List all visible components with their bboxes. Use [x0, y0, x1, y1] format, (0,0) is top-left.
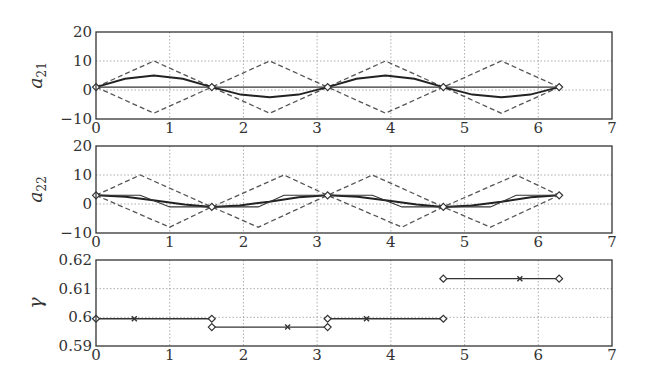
- x-tick-label: 5: [460, 346, 470, 364]
- x-tick-label: 6: [534, 346, 544, 364]
- y-tick-label: 10: [73, 52, 92, 70]
- x-tick-label: 1: [165, 233, 175, 251]
- x-tick-label: 5: [460, 119, 470, 137]
- x-tick-label: 4: [386, 119, 396, 137]
- x-tick-label: 5: [460, 233, 470, 251]
- diamond-marker: [556, 275, 563, 282]
- grid: [96, 260, 612, 346]
- x-tick-label: 1: [165, 119, 175, 137]
- diamond-marker: [324, 324, 331, 331]
- y-tick-label: 0.6: [68, 308, 92, 326]
- x-tick-label: 6: [534, 233, 544, 251]
- x-tick-label: 7: [607, 346, 617, 364]
- gamma-segment: [93, 315, 216, 322]
- y-axis-label: a21: [24, 62, 49, 89]
- chart-figure: 0123456720100−10a210123456720100−10a2201…: [0, 0, 646, 387]
- diamond-marker: [208, 315, 215, 322]
- x-tick-label: 3: [312, 119, 322, 137]
- gamma-segment: [440, 275, 563, 282]
- x-tick-label: 1: [165, 346, 175, 364]
- y-tick-label: 0: [82, 81, 92, 99]
- diamond-marker: [208, 84, 215, 91]
- axes-frame: [96, 260, 612, 346]
- gamma-segment: [208, 324, 331, 331]
- x-tick-label: 0: [91, 233, 101, 251]
- y-tick-label: 20: [73, 137, 92, 155]
- y-tick-label: 0.59: [59, 337, 92, 355]
- subplot-3: 012345670.620.610.60.59γ: [24, 251, 617, 364]
- subplot-2: 0123456720100−10a22: [24, 137, 617, 251]
- x-tick-label: 4: [386, 233, 396, 251]
- x-tick-label: 7: [607, 119, 617, 137]
- y-tick-label: −10: [60, 224, 92, 242]
- x-tick-label: 3: [312, 233, 322, 251]
- diamond-marker: [556, 84, 563, 91]
- diamond-marker: [440, 84, 447, 91]
- y-tick-label: 0.62: [59, 251, 92, 269]
- subplot-1: 0123456720100−10a21: [24, 23, 617, 137]
- diamond-marker: [208, 324, 215, 331]
- x-tick-label: 2: [239, 346, 249, 364]
- diamond-marker: [440, 203, 447, 210]
- diamond-marker: [324, 84, 331, 91]
- y-tick-label: 0: [82, 195, 92, 213]
- diamond-marker: [324, 192, 331, 199]
- y-tick-label: 0.61: [59, 280, 92, 298]
- y-tick-label: 10: [73, 166, 92, 184]
- gamma-segment: [324, 315, 447, 322]
- diamond-marker: [556, 192, 563, 199]
- x-tick-label: 7: [607, 233, 617, 251]
- x-tick-label: 6: [534, 119, 544, 137]
- diamond-marker: [440, 275, 447, 282]
- diamond-marker: [440, 315, 447, 322]
- y-tick-label: −10: [60, 110, 92, 128]
- y-axis-label: γ: [24, 297, 46, 309]
- y-tick-label: 20: [73, 23, 92, 41]
- x-tick-label: 2: [239, 233, 249, 251]
- x-tick-label: 2: [239, 119, 249, 137]
- x-tick-label: 0: [91, 346, 101, 364]
- diamond-marker: [324, 315, 331, 322]
- y-axis-label: a22: [24, 176, 49, 203]
- x-tick-label: 0: [91, 119, 101, 137]
- x-tick-label: 4: [386, 346, 396, 364]
- x-tick-label: 3: [312, 346, 322, 364]
- series-line: [96, 195, 559, 227]
- diamond-marker: [208, 203, 215, 210]
